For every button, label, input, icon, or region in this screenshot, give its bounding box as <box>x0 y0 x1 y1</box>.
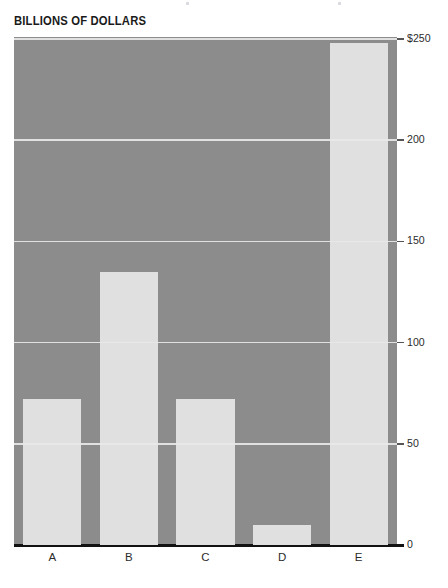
y-axis-label-200: 200 <box>407 133 425 145</box>
bar-B <box>100 272 158 545</box>
y-axis-label-100: 100 <box>407 336 425 348</box>
y-tick-0 <box>397 544 404 547</box>
gridline-200 <box>14 139 397 141</box>
x-axis-label-D: D <box>244 551 321 563</box>
bars-group <box>14 37 397 545</box>
y-axis-label-0: 0 <box>407 538 413 550</box>
y-axis-label-50: 50 <box>407 437 419 449</box>
x-axis-label-A: A <box>14 551 91 563</box>
y-tick-50 <box>397 443 404 445</box>
plot-area <box>14 37 397 545</box>
y-tick-150 <box>397 241 404 243</box>
x-axis-label-C: C <box>167 551 244 563</box>
y-axis-label-250: $250 <box>407 32 431 44</box>
gridline-250 <box>14 38 397 40</box>
x-axis-label-B: B <box>91 551 168 563</box>
gridline-150 <box>14 241 397 243</box>
bar-E <box>330 43 388 545</box>
gridline-50 <box>14 443 397 445</box>
y-tick-200 <box>397 139 404 141</box>
bar-chart-figure: BILLIONS OF DOLLARS 050100150200$250 ABC… <box>0 0 448 588</box>
x-axis-label-E: E <box>320 551 397 563</box>
y-axis-label-150: 150 <box>407 234 425 246</box>
bar-D <box>253 525 311 545</box>
y-tick-250 <box>397 38 404 40</box>
chart-title: BILLIONS OF DOLLARS <box>14 14 146 28</box>
scan-artifact <box>338 2 341 5</box>
bar-C <box>176 399 234 545</box>
scan-artifact <box>186 2 189 5</box>
bar-A <box>23 399 81 545</box>
gridline-100 <box>14 342 397 344</box>
y-tick-100 <box>397 342 404 344</box>
